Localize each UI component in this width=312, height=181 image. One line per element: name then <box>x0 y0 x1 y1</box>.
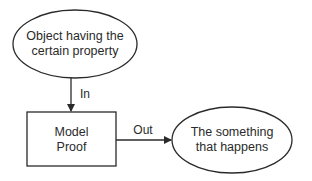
outcome-label-line-2: that happens <box>196 140 268 154</box>
outcome-label-line-1: The something <box>191 125 274 139</box>
model-label-line-1: Model <box>54 125 88 139</box>
model-box <box>27 112 116 166</box>
node-model: Model Proof <box>27 112 116 166</box>
edge-in: In <box>71 78 90 111</box>
object-label-line-2: certain property <box>32 44 120 58</box>
node-outcome: The something that happens <box>172 107 292 173</box>
out-label: Out <box>133 123 153 137</box>
object-label-line-1: Object having the <box>26 29 123 43</box>
in-label: In <box>80 87 90 101</box>
diagram-canvas: Object having the certain property In Mo… <box>0 0 312 181</box>
node-object: Object having the certain property <box>13 10 137 78</box>
model-label-line-2: Proof <box>57 140 87 154</box>
edge-out: Out <box>116 123 171 140</box>
